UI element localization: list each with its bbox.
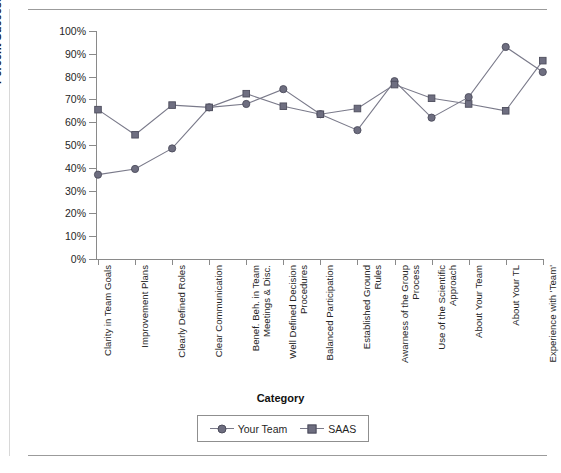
legend-item: Your Team bbox=[210, 423, 288, 435]
x-axis-category-label: Use of the ScientificApproach bbox=[436, 265, 459, 385]
chart-page: Percent Success Category 0%10%20%30%40%5… bbox=[0, 0, 561, 473]
legend-item-label: SAAS bbox=[328, 423, 356, 435]
data-point-marker bbox=[539, 57, 546, 64]
y-axis-tick-label: 0% bbox=[71, 253, 86, 265]
x-axis-category-label: Experience with 'Team' bbox=[547, 265, 558, 385]
x-axis-category-label: Balanced Participation bbox=[324, 265, 335, 385]
data-point-marker bbox=[354, 105, 361, 112]
data-point-marker bbox=[428, 95, 435, 102]
legend-marker-square-icon bbox=[300, 428, 324, 429]
y-axis-tick bbox=[89, 99, 96, 100]
y-axis-tick-label: 80% bbox=[65, 71, 86, 83]
data-point-marker bbox=[169, 102, 176, 109]
top-divider bbox=[28, 9, 547, 10]
y-axis-tick-label: 50% bbox=[65, 139, 86, 151]
data-point-marker bbox=[132, 131, 139, 138]
legend-marker-circle-icon bbox=[210, 428, 234, 429]
x-axis-tick bbox=[357, 259, 358, 265]
series-line bbox=[98, 47, 543, 175]
x-axis-category-label: Well Defined DecisionProcedures bbox=[287, 265, 310, 385]
y-axis-tick-label: 60% bbox=[65, 116, 86, 128]
x-axis-tick bbox=[543, 259, 544, 265]
y-axis-tick-label: 100% bbox=[59, 25, 86, 37]
y-axis-tick-label: 70% bbox=[65, 93, 86, 105]
x-axis-tick bbox=[209, 259, 210, 265]
x-axis-tick bbox=[506, 259, 507, 265]
data-point-marker bbox=[428, 114, 435, 121]
x-axis-category-label: About Your TL bbox=[510, 265, 521, 385]
x-axis-tick bbox=[469, 259, 470, 265]
y-axis-tick bbox=[89, 31, 96, 32]
x-axis-tick bbox=[432, 259, 433, 265]
x-axis-category-label: Improvement Plans bbox=[139, 265, 150, 385]
data-point-marker bbox=[169, 145, 176, 152]
x-axis-category-label: Awarness of the GroupProcess bbox=[399, 265, 422, 385]
data-point-marker bbox=[317, 111, 324, 118]
data-point-marker bbox=[391, 78, 398, 85]
x-axis-category-label: Clear Communication bbox=[213, 265, 224, 385]
y-axis-tick-label: 30% bbox=[65, 185, 86, 197]
legend-item: SAAS bbox=[300, 423, 356, 435]
data-point-marker bbox=[354, 127, 361, 134]
data-point-marker bbox=[465, 94, 472, 101]
data-point-marker bbox=[280, 103, 287, 110]
data-point-marker bbox=[131, 165, 138, 172]
y-axis-tick bbox=[89, 77, 96, 78]
data-point-marker bbox=[317, 111, 324, 118]
y-axis-line bbox=[96, 31, 97, 259]
bottom-divider bbox=[28, 455, 547, 456]
x-axis-category-label: Clearly Defined Roles bbox=[176, 265, 187, 385]
y-axis-tick bbox=[89, 122, 96, 123]
y-axis-tick bbox=[89, 54, 96, 55]
data-point-marker bbox=[206, 104, 213, 111]
x-axis-tick bbox=[246, 259, 247, 265]
data-point-marker bbox=[502, 43, 509, 50]
x-axis-category-label: Established GroundRules bbox=[361, 265, 384, 385]
data-point-marker bbox=[280, 86, 287, 93]
y-axis-tick bbox=[89, 259, 96, 260]
x-axis-tick bbox=[320, 259, 321, 265]
data-point-marker bbox=[465, 101, 472, 108]
y-axis-tick-label: 90% bbox=[65, 48, 86, 60]
x-axis-category-label: Clarity in Team Goals bbox=[102, 265, 113, 385]
y-axis-tick bbox=[89, 191, 96, 192]
data-point-marker bbox=[243, 100, 250, 107]
y-axis-tick-label: 20% bbox=[65, 207, 86, 219]
y-axis-tick bbox=[89, 213, 96, 214]
data-point-marker bbox=[502, 108, 509, 115]
x-axis-tick bbox=[172, 259, 173, 265]
y-axis-labels: 0%10%20%30%40%50%60%70%80%90%100% bbox=[0, 0, 86, 473]
x-axis-tick bbox=[98, 259, 99, 265]
data-point-marker bbox=[243, 90, 250, 97]
data-point-marker bbox=[539, 68, 546, 75]
x-axis-tick bbox=[283, 259, 284, 265]
y-axis-tick-label: 10% bbox=[65, 230, 86, 242]
x-axis-category-label: About Your Team bbox=[473, 265, 484, 385]
x-axis-tick bbox=[135, 259, 136, 265]
x-axis-category-label: Benef. Beh. in TeamMeetings & Disc. bbox=[250, 265, 273, 385]
x-axis-tick bbox=[395, 259, 396, 265]
data-point-marker bbox=[206, 104, 213, 111]
y-axis-tick-label: 40% bbox=[65, 162, 86, 174]
series-line bbox=[98, 61, 543, 135]
y-axis-tick bbox=[89, 145, 96, 146]
data-point-marker bbox=[391, 81, 398, 88]
legend-item-label: Your Team bbox=[238, 423, 288, 435]
y-axis-tick bbox=[89, 168, 96, 169]
chart-legend: Your TeamSAAS bbox=[197, 415, 369, 442]
y-axis-tick bbox=[89, 236, 96, 237]
